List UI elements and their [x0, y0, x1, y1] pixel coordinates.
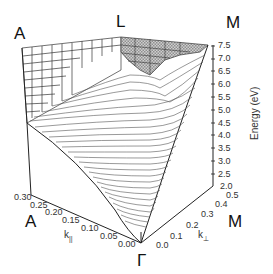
energy-tick: 5.5	[218, 93, 231, 102]
corner-label-m-top: M	[226, 14, 240, 31]
energy-tick: 5.0	[218, 106, 231, 115]
energy-axis-title: Energy (eV)	[250, 87, 260, 140]
kperp-tick: 0.3	[201, 210, 214, 219]
kperp-tick: 0.4	[215, 200, 228, 209]
kperp-tick: 0.2	[186, 221, 199, 230]
kpar-tick: 0.15	[62, 216, 80, 225]
kpar-tick: 0.30	[14, 193, 32, 202]
energy-tick: 2.5	[218, 170, 231, 179]
energy-tick: 7.5	[218, 41, 231, 50]
kperp-axis-title: k⊥	[198, 230, 209, 242]
kpar-tick: 0.10	[81, 224, 99, 233]
kpar-tick: 0.20	[45, 208, 63, 217]
surface-plot	[0, 0, 273, 274]
corner-label-a-bottom: A	[25, 213, 36, 230]
kperp-tick: 0.5	[226, 191, 239, 200]
energy-tick: 6.5	[218, 67, 231, 76]
corner-label-l: L	[116, 13, 125, 30]
kperp-tick: 0.1	[170, 232, 183, 241]
corner-label-a-top: A	[14, 25, 25, 42]
energy-tick: 3.0	[218, 157, 231, 166]
energy-tick: 3.5	[218, 144, 231, 153]
kpar-axis-title: k||	[64, 230, 73, 242]
energy-tick: 6.0	[218, 80, 231, 89]
energy-tick: 4.5	[218, 119, 231, 128]
energy-tick: 7.0	[218, 54, 231, 63]
kpar-tick: 0.00	[118, 240, 136, 249]
kperp-tick: 0.0	[156, 241, 169, 250]
kpar-tick: 0.05	[100, 232, 118, 241]
corner-label-m-bottom: M	[228, 213, 242, 230]
energy-tick: 4.0	[218, 131, 231, 140]
corner-label-gamma: Γ	[137, 252, 146, 269]
high-energy-shaded-region	[121, 37, 208, 75]
back-wall-grid	[22, 37, 121, 123]
energy-tick: 2.0	[220, 182, 233, 191]
